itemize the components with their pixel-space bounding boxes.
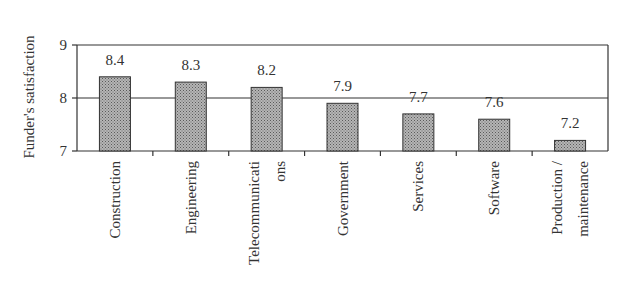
category-label: Construction bbox=[107, 161, 123, 239]
category-label: Telecommunicati bbox=[246, 161, 262, 265]
category-label: Engineering bbox=[183, 161, 199, 235]
bar-chart: 7898.4Construction8.3Engineering8.2Telec… bbox=[0, 0, 640, 296]
data-label: 8.2 bbox=[257, 62, 276, 78]
bar bbox=[99, 77, 130, 151]
bar bbox=[251, 87, 282, 151]
bar bbox=[479, 119, 510, 151]
data-label: 7.9 bbox=[333, 78, 352, 94]
bar bbox=[175, 82, 206, 151]
data-label: 7.2 bbox=[561, 115, 580, 131]
data-label: 7.6 bbox=[485, 94, 504, 110]
bar bbox=[327, 103, 358, 151]
category-label: Software bbox=[486, 161, 502, 215]
data-label: 7.7 bbox=[409, 89, 428, 105]
category-label: Services bbox=[410, 161, 426, 212]
y-tick-label: 7 bbox=[60, 143, 68, 159]
plot-area: 7898.4Construction8.3Engineering8.2Telec… bbox=[60, 37, 609, 265]
category-label: maintenance bbox=[575, 161, 591, 237]
y-tick-label: 9 bbox=[60, 37, 68, 53]
category-label: ons bbox=[272, 161, 288, 182]
data-label: 8.3 bbox=[181, 57, 200, 73]
category-label: Government bbox=[335, 160, 351, 236]
y-tick-label: 8 bbox=[60, 90, 68, 106]
data-label: 8.4 bbox=[106, 52, 125, 68]
bar bbox=[403, 114, 434, 151]
category-label: Production / bbox=[549, 160, 565, 235]
bar bbox=[555, 140, 586, 151]
